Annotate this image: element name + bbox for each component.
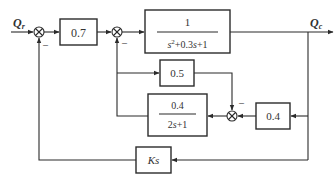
plant-transfer-function-block: 1 s2+0.3s+1 xyxy=(145,10,230,53)
svg-text:Qr: Qr xyxy=(13,16,26,31)
inner-feedback-line xyxy=(117,38,148,116)
output-signal-label: Qc xyxy=(310,16,323,31)
outer-feedback-line xyxy=(39,38,136,160)
lag-transfer-function-block: 0.4 2s+1 xyxy=(148,94,207,136)
svg-text:0.5: 0.5 xyxy=(170,67,184,79)
input-signal-label: Qr xyxy=(13,16,26,31)
summing-junction-2 xyxy=(112,27,122,37)
summing-junction-1 xyxy=(34,27,44,37)
gain-block-0.5: 0.5 xyxy=(160,60,194,86)
sum1-minus-sign: – xyxy=(42,39,49,50)
svg-text:Ks: Ks xyxy=(147,154,160,166)
derivative-gain-block: Ks xyxy=(136,147,171,173)
gain-block-0.7: 0.7 xyxy=(60,19,97,45)
gain-block-0.4: 0.4 xyxy=(256,103,290,129)
svg-text:Qc: Qc xyxy=(310,16,323,31)
svg-text:2s+1: 2s+1 xyxy=(168,119,188,130)
svg-text:0.7: 0.7 xyxy=(71,26,86,40)
block-diagram: Qr – 0.7 – 1 s2+0.3s+1 Qc xyxy=(0,0,335,183)
svg-text:0.4: 0.4 xyxy=(266,110,280,122)
sum3-minus-sign: – xyxy=(238,97,245,108)
summing-junction-3 xyxy=(227,111,237,121)
svg-text:0.4: 0.4 xyxy=(171,100,184,111)
sum2-minus-sign: – xyxy=(121,37,128,48)
svg-text:1: 1 xyxy=(185,16,191,28)
